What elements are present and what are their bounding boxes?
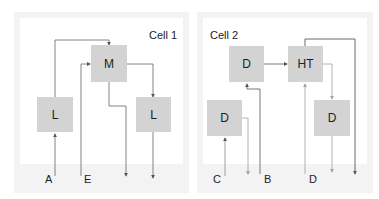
node-d-top: D — [229, 46, 264, 82]
cell-2-title: Cell 2 — [210, 30, 238, 41]
node-d-left: D — [207, 100, 242, 136]
input-label-b: B — [264, 174, 271, 185]
wire-m-to-l2 — [127, 64, 153, 97]
node-ht: HT — [288, 46, 323, 82]
node-l-right: L — [136, 97, 171, 132]
node-m: M — [91, 45, 127, 82]
wire-dleft-to-out — [242, 118, 248, 174]
node-l-left: L — [37, 97, 73, 132]
node-d-right: D — [314, 100, 350, 136]
wire-e-to-m — [81, 64, 90, 176]
input-label-e: E — [84, 174, 91, 185]
wire-m-to-out — [109, 82, 126, 176]
cell-1-title: Cell 1 — [149, 30, 177, 41]
input-label-d: D — [309, 174, 317, 185]
wire-b-to-dtop — [247, 84, 260, 174]
input-label-c: C — [213, 174, 221, 185]
input-label-a: A — [45, 174, 52, 185]
wire-ht-to-dright — [323, 64, 332, 99]
